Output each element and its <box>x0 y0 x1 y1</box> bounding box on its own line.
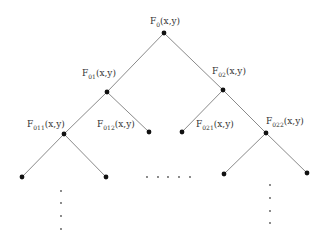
ellipsis-dot <box>60 190 62 192</box>
node-label-f0: F0(x,y) <box>150 16 180 28</box>
node-label-f012: F012(x,y) <box>97 119 135 131</box>
ellipsis-dot <box>146 176 148 178</box>
tree-node-f011 <box>62 132 67 137</box>
tree-node-f01 <box>105 90 110 95</box>
tree-edge <box>224 133 266 174</box>
ellipsis-dot <box>60 202 62 204</box>
tree-edge <box>164 33 223 90</box>
ellipsis-dot <box>269 184 271 186</box>
leaf-node <box>20 175 25 180</box>
ellipsis-dot <box>157 176 159 178</box>
tree-node-f0 <box>162 31 167 36</box>
ellipsis-dot <box>269 197 271 199</box>
leaf-node <box>305 171 310 176</box>
ellipsis-dots <box>60 176 271 230</box>
leaf-node <box>104 175 109 180</box>
tree-nodes <box>20 31 310 180</box>
tree-diagram: F0(x,y)F01(x,y)F02(x,y)F011(x,y)F012(x,y… <box>0 0 323 243</box>
tree-edge <box>64 134 106 177</box>
node-label-f022: F022(x,y) <box>266 116 304 128</box>
tree-node-f012 <box>147 130 152 135</box>
tree-edges <box>22 33 307 177</box>
leaf-node <box>222 172 227 177</box>
ellipsis-dot <box>269 222 271 224</box>
node-label-f011: F011(x,y) <box>27 119 65 131</box>
ellipsis-dot <box>60 215 62 217</box>
node-label-f021: F021(x,y) <box>196 119 234 131</box>
ellipsis-dot <box>60 228 62 230</box>
ellipsis-dot <box>269 210 271 212</box>
node-label-f02: F02(x,y) <box>212 66 246 78</box>
tree-edge <box>107 33 164 92</box>
ellipsis-dot <box>167 176 169 178</box>
node-label-f01: F01(x,y) <box>82 68 116 80</box>
tree-edge <box>22 134 64 177</box>
tree-node-f021 <box>180 130 185 135</box>
ellipsis-dot <box>178 176 180 178</box>
tree-edge <box>266 133 307 173</box>
tree-node-f02 <box>221 88 226 93</box>
ellipsis-dot <box>189 176 191 178</box>
tree-node-f022 <box>264 131 269 136</box>
